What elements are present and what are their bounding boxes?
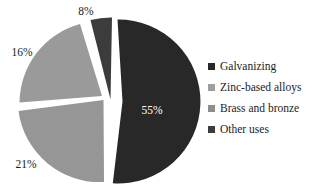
pie-label-other-uses: 8% [78, 5, 94, 17]
pie-plot-area: 55% 21% 16% 8% [0, 0, 210, 188]
legend-item-zinc-based-alloys[interactable]: Zinc-based alloys [208, 77, 327, 98]
legend-label: Other uses [220, 124, 269, 136]
legend-swatch-icon [208, 63, 215, 70]
legend-swatch-icon [208, 105, 215, 112]
legend-item-galvanizing[interactable]: Galvanizing [208, 56, 327, 77]
legend-label: Brass and bronze [220, 103, 299, 115]
pie-slice-brass-and-bronze[interactable] [20, 24, 103, 103]
chart-legend: Galvanizing Zinc-based alloys Brass and … [208, 56, 327, 140]
legend-swatch-icon [208, 84, 215, 91]
legend-label: Galvanizing [220, 61, 276, 73]
legend-swatch-icon [208, 126, 215, 133]
pie-chart: 55% 21% 16% 8% Galvanizing Zinc-based al… [0, 0, 327, 188]
pie-label-zinc-based-alloys: 21% [15, 158, 37, 170]
pie-label-brass-and-bronze: 16% [11, 46, 33, 58]
legend-label: Zinc-based alloys [220, 82, 301, 94]
legend-item-other-uses[interactable]: Other uses [208, 119, 327, 140]
pie-label-galvanizing: 55% [141, 104, 163, 116]
pie-svg: 55% 21% 16% 8% [0, 0, 210, 188]
legend-item-brass-and-bronze[interactable]: Brass and bronze [208, 98, 327, 119]
pie-slice-galvanizing[interactable] [113, 19, 201, 183]
